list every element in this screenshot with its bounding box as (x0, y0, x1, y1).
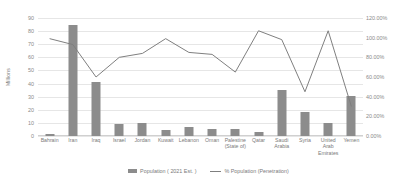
y-axis-left-tick-label: 30 (10, 94, 34, 100)
legend-line-swatch-icon (210, 171, 221, 172)
x-axis-tick-label: Bahrain (38, 137, 61, 143)
x-axis-tick-label: Jordan (131, 137, 154, 143)
x-axis-tick-label: Saudi Arabia (270, 137, 293, 150)
penetration-line (50, 31, 352, 107)
y-axis-right-tick-label: 0.00% (366, 133, 396, 139)
y-axis-left-tick-label: 20 (10, 107, 34, 113)
x-axis-tick-label: Yemen (340, 137, 363, 143)
legend-label: Population ( 2021 Est. ) (140, 168, 196, 174)
x-axis-tick-label: Israel (108, 137, 131, 143)
x-axis-tick-label: Kuwait (154, 137, 177, 143)
y-axis-left-tick-label: 10 (10, 120, 34, 126)
x-axis-tick-label: Iran (61, 137, 84, 143)
line-series (38, 18, 363, 136)
x-axis-tick-label: Iraq (84, 137, 107, 143)
legend-item[interactable]: % Population (Penetration) (210, 168, 288, 174)
plot-area (38, 18, 363, 136)
y-axis-right-tick-label: 20.00% (366, 113, 396, 119)
y-axis-left-tick-label: 40 (10, 81, 34, 87)
y-axis-left-tick-label: 60 (10, 54, 34, 60)
y-axis-left-tick-label: 90 (10, 15, 34, 21)
legend-bar-swatch-icon (128, 169, 137, 173)
y-axis-right-tick-label: 100.00% (366, 35, 396, 41)
chart-container: Millions 0102030405060708090 0.00%20.00%… (0, 0, 417, 188)
x-axis-labels: BahrainIranIraqIsraelJordanKuwaitLebanon… (38, 137, 363, 163)
y-axis-right-tick-label: 80.00% (366, 54, 396, 60)
y-axis-right-tick-label: 60.00% (366, 74, 396, 80)
x-axis-tick-label: Syria (293, 137, 316, 143)
chart-legend: Population ( 2021 Est. )% Population (Pe… (0, 168, 417, 174)
x-axis-tick-label: United Arab Emirates (317, 137, 340, 156)
x-axis-tick-label: Palestine (State of) (224, 137, 247, 150)
x-axis-tick-label: Oman (201, 137, 224, 143)
y-axis-left-tick-label: 0 (10, 133, 34, 139)
y-axis-title: Millions (2, 18, 14, 136)
y-axis-right-tick-label: 120.00% (366, 15, 396, 21)
x-axis-tick-label: Lebanon (177, 137, 200, 143)
legend-item[interactable]: Population ( 2021 Est. ) (128, 168, 196, 174)
legend-label: % Population (Penetration) (224, 168, 288, 174)
x-axis-tick-label: Qatar (247, 137, 270, 143)
y-axis-right-tick-label: 40.00% (366, 94, 396, 100)
y-axis-left-tick-label: 70 (10, 41, 34, 47)
y-axis-left-tick-label: 50 (10, 67, 34, 73)
y-axis-left-tick-label: 80 (10, 28, 34, 34)
